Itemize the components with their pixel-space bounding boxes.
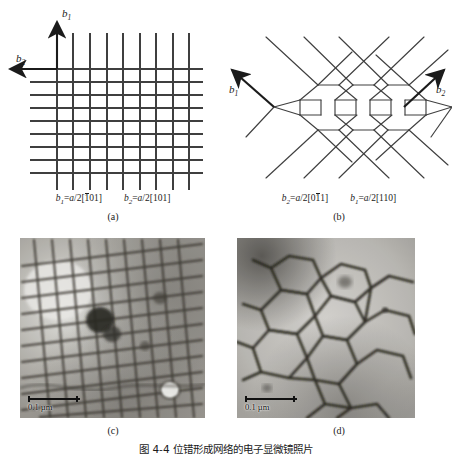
arrow-label-b1: b1 [229,83,238,98]
panel-b-hexagonal-network-schematic: b1 b2 [226,0,452,200]
arrow-label-b2: b2 [16,52,26,67]
burgers-vector-a1: b1=a/2[101] [56,193,102,206]
arrow-b1-up-left [232,70,274,107]
scale-bar-label-d: 0.1 µm [245,403,297,412]
burgers-vector-b2: b2=a/2[011] [282,193,328,206]
figure-caption: 图 4-4 位错形成网络的电子显微镜照片 [0,441,452,454]
scale-bar-line-d [245,396,297,402]
panel-label-c: (c) [0,425,226,436]
square-network-drawing: b1 b2 [0,0,226,200]
panel-c-tem-micrograph: 0.1 µm [20,238,205,418]
scale-bar-label-c: 0.1 µm [28,403,80,412]
arrow-label-b2: b2 [436,83,446,98]
panel-b-burgers-captions: b2=a/2[011] b1=a/2[110] [226,193,452,206]
panel-label-d: (d) [226,425,452,436]
panel-label-a: (a) [0,211,226,222]
scale-bar-line-c [28,396,80,402]
burgers-vector-b1: b1=a/2[110] [350,193,396,206]
panel-a-square-network-schematic: b1 b2 [0,0,226,200]
tem-hexagonal-network-image [237,238,415,418]
panel-d-tem-micrograph: 0.1 µm [237,238,415,418]
tem-square-network-image [20,238,205,418]
figure-dislocation-networks: b1 b2 b1=a/2[101] b2=a/2[101] (a) [0,0,452,454]
panel-a-burgers-captions: b1=a/2[101] b2=a/2[101] [0,193,226,206]
burgers-vector-a2: b2=a/2[101] [124,193,170,206]
hexagonal-network-drawing: b1 b2 [226,0,452,200]
arrow-label-b1: b1 [62,7,71,22]
scale-bar-c: 0.1 µm [28,396,80,412]
scale-bar-d: 0.1 µm [245,396,297,412]
panel-label-b: (b) [226,211,452,222]
